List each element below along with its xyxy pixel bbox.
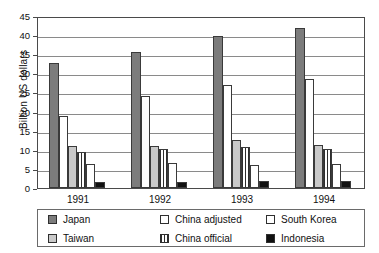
x-tick-1992: 1992 (130, 194, 190, 205)
legend-item-indonesia[interactable]: Indonesia (266, 229, 324, 248)
legend-item-japan[interactable]: Japan (48, 210, 90, 229)
y-tick-20: 20 (0, 108, 30, 118)
bar-south-korea-1993 (250, 165, 259, 188)
swatch-china-official-icon (160, 234, 169, 243)
y-tick-10: 10 (0, 146, 30, 156)
bar-taiwan-1993 (232, 140, 241, 188)
y-tick-45: 45 (0, 12, 30, 22)
legend: JapanChina adjustedSouth Korea TaiwanChi… (37, 209, 365, 247)
y-tick-25: 25 (0, 88, 30, 98)
bar-japan-1991 (49, 63, 58, 188)
bar-japan-1994 (295, 28, 304, 188)
bar-china-official-1994 (323, 149, 332, 188)
chart-container: Billion US dollars 454035302520151050 19… (0, 0, 379, 253)
y-tick-15: 15 (0, 127, 30, 137)
y-tick-40: 40 (0, 31, 30, 41)
bar-indonesia-1991 (95, 182, 104, 188)
legend-label: South Korea (281, 214, 337, 225)
bar-south-korea-1992 (168, 163, 177, 188)
legend-item-china-adjusted[interactable]: China adjusted (160, 210, 242, 229)
legend-item-china-official[interactable]: China official (160, 229, 232, 248)
bar-indonesia-1993 (259, 181, 268, 188)
bar-indonesia-1994 (341, 181, 350, 188)
bar-china-adjusted-1991 (59, 116, 68, 188)
legend-label: Japan (63, 214, 90, 225)
legend-item-taiwan[interactable]: Taiwan (48, 229, 94, 248)
bar-china-official-1991 (77, 152, 86, 188)
legend-label: Taiwan (63, 233, 94, 244)
bar-south-korea-1991 (86, 164, 95, 188)
legend-item-south-korea[interactable]: South Korea (266, 210, 337, 229)
y-tick-mark (33, 189, 37, 190)
legend-label: China official (175, 233, 232, 244)
bar-taiwan-1994 (314, 145, 323, 188)
bar-china-official-1993 (241, 147, 250, 188)
y-tick-0: 0 (0, 184, 30, 194)
bar-china-adjusted-1994 (305, 79, 314, 188)
swatch-china-adjusted-icon (160, 215, 169, 224)
bar-taiwan-1992 (150, 146, 159, 188)
swatch-south-korea-icon (266, 215, 275, 224)
y-tick-5: 5 (0, 165, 30, 175)
bar-taiwan-1991 (68, 146, 77, 188)
y-tick-35: 35 (0, 50, 30, 60)
x-tick-1993: 1993 (212, 194, 272, 205)
bar-series-group (38, 18, 364, 188)
y-tick-30: 30 (0, 69, 30, 79)
swatch-japan-icon (48, 215, 57, 224)
bar-south-korea-1994 (332, 164, 341, 188)
bar-china-official-1992 (159, 149, 168, 188)
legend-label: China adjusted (175, 214, 242, 225)
bar-china-adjusted-1993 (223, 85, 232, 188)
bar-japan-1992 (131, 52, 140, 188)
bar-china-adjusted-1992 (141, 96, 150, 188)
swatch-taiwan-icon (48, 234, 57, 243)
swatch-indonesia-icon (266, 234, 275, 243)
bar-japan-1993 (213, 36, 222, 188)
plot-area (37, 17, 365, 189)
legend-label: Indonesia (281, 233, 324, 244)
x-tick-1991: 1991 (48, 194, 108, 205)
bar-indonesia-1992 (177, 182, 186, 188)
x-tick-1994: 1994 (294, 194, 354, 205)
